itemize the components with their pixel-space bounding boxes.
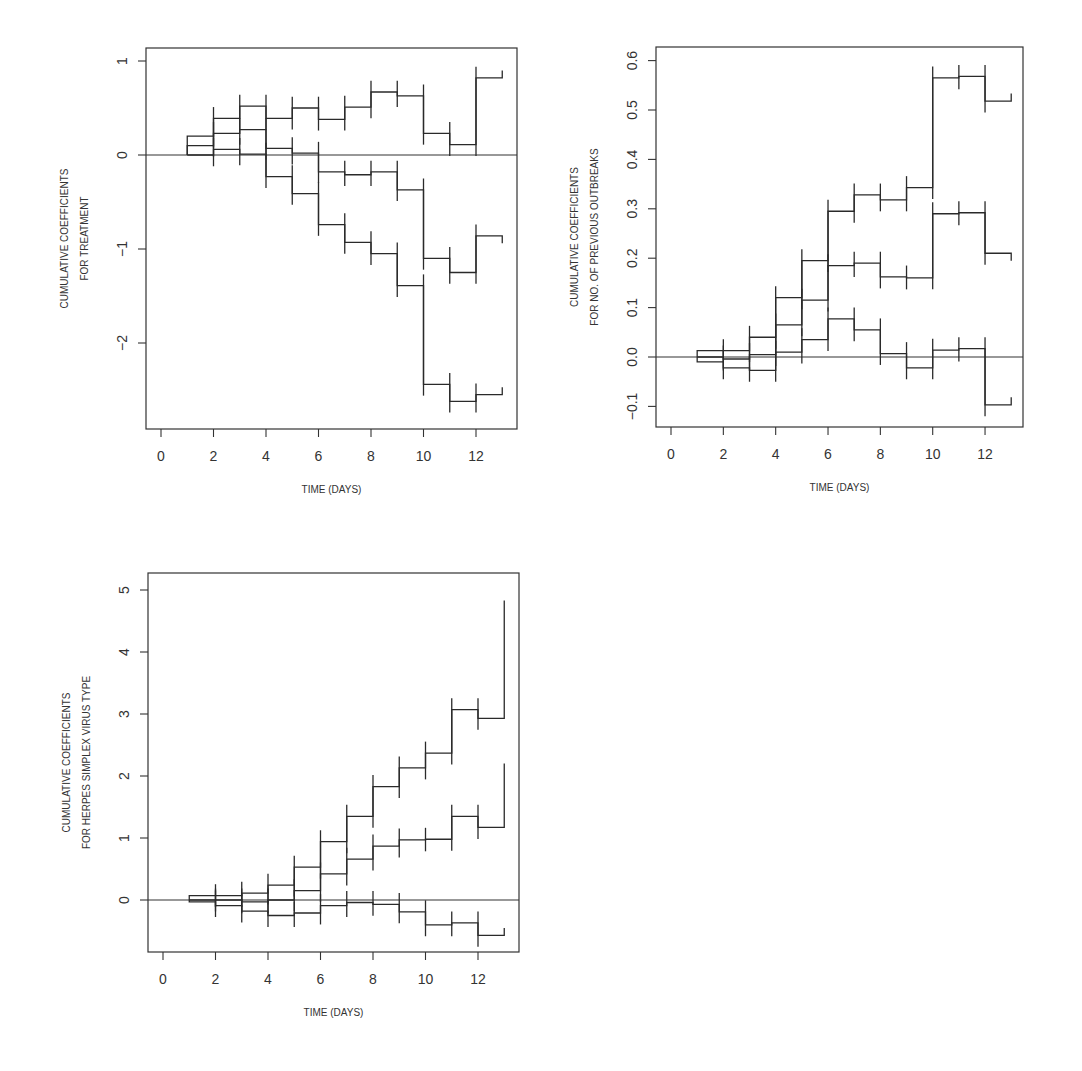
x-axis-label: TIME (DAYS)	[810, 482, 870, 493]
y-tick-label: 0.4	[624, 149, 640, 169]
y-tick-label: 0	[114, 151, 130, 159]
panel-hsv-type: 024681012012345TIME (DAYS)CUMULATIVE COE…	[61, 573, 520, 1018]
x-tick-label: 6	[824, 446, 832, 462]
x-tick-label: 6	[317, 971, 325, 987]
y-tick-label: 0.2	[624, 248, 640, 268]
y-tick-label: −0.1	[624, 392, 640, 420]
x-tick-label: 8	[876, 446, 884, 462]
step-series-lower-confidence-bound	[187, 149, 502, 401]
x-tick-label: 10	[418, 971, 434, 987]
y-axis-label: CUMULATIVE COEFFICIENTS	[61, 692, 72, 832]
y-tick-label: 3	[116, 710, 132, 718]
y-tick-label: 0.6	[624, 51, 640, 71]
x-axis-label: TIME (DAYS)	[302, 484, 362, 495]
y-tick-label: 0.1	[624, 298, 640, 318]
y-tick-label: 4	[116, 648, 132, 656]
y-tick-label: 0	[116, 896, 132, 904]
x-tick-label: 12	[468, 448, 484, 464]
x-tick-label: 0	[159, 971, 167, 987]
x-tick-label: 2	[719, 446, 727, 462]
x-tick-label: 4	[262, 448, 270, 464]
x-axis-label: TIME (DAYS)	[304, 1007, 364, 1018]
panel-treatment: 024681012−2−101TIME (DAYS)CUMULATIVE COE…	[59, 48, 518, 495]
y-tick-label: 1	[114, 57, 130, 65]
plot-frame	[656, 47, 1023, 427]
plot-frame	[146, 48, 517, 429]
x-tick-label: 12	[470, 971, 486, 987]
y-axis-label: FOR NO. OF PREVIOUS OUTBREAKS	[589, 148, 600, 326]
x-tick-label: 8	[369, 971, 377, 987]
x-tick-label: 8	[367, 448, 375, 464]
y-tick-label: 1	[116, 834, 132, 842]
y-axis-label: CUMULATIVE COEFFICIENTS	[59, 168, 70, 308]
y-tick-label: −1	[114, 241, 130, 257]
x-tick-label: 0	[157, 448, 165, 464]
x-tick-label: 2	[212, 971, 220, 987]
y-axis-label: FOR TREATMENT	[79, 196, 90, 280]
x-tick-label: 4	[264, 971, 272, 987]
y-axis-label: FOR HERPES SIMPLEX VIRUS TYPE	[81, 676, 92, 850]
y-tick-label: 5	[116, 586, 132, 594]
panel-previous-outbreaks: 024681012−0.10.00.10.20.30.40.50.6TIME (…	[569, 47, 1024, 493]
x-tick-label: 4	[772, 446, 780, 462]
x-tick-label: 12	[977, 446, 993, 462]
y-tick-label: −2	[114, 335, 130, 351]
y-tick-label: 0.5	[624, 100, 640, 120]
x-tick-label: 2	[210, 448, 218, 464]
y-tick-label: 0.3	[624, 199, 640, 219]
x-tick-label: 6	[315, 448, 323, 464]
x-tick-label: 10	[925, 446, 941, 462]
y-tick-label: 0.0	[624, 347, 640, 367]
figure: 024681012−2−101TIME (DAYS)CUMULATIVE COE…	[0, 0, 1082, 1071]
y-axis-label: CUMULATIVE COEFFICIENTS	[569, 167, 580, 307]
y-tick-label: 2	[116, 772, 132, 780]
x-tick-label: 10	[416, 448, 432, 464]
x-tick-label: 0	[667, 446, 675, 462]
